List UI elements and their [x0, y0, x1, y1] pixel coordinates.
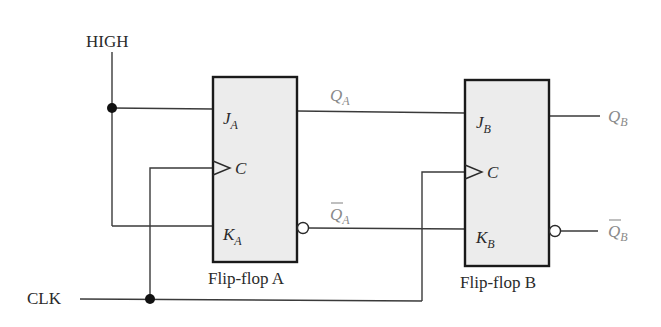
output-qb-bar-label: QB [608, 220, 628, 244]
high-label: HIGH [86, 32, 129, 51]
wire-clk-to-ca [150, 168, 213, 299]
pin-cb-label: C [487, 163, 499, 182]
junction-dot-clk [145, 294, 155, 304]
flip-flop-a: JA C KA Flip-flop A [208, 77, 309, 288]
flip-flop-a-name: Flip-flop A [208, 269, 285, 288]
inversion-bubble-b-icon [550, 226, 561, 237]
wire-high-to-ja [112, 108, 213, 109]
pin-ca-label: C [235, 159, 247, 178]
flip-flop-b: JB C KB Flip-flop B [460, 80, 561, 292]
wire-clk-to-cb [422, 172, 465, 301]
clk-label: CLK [27, 289, 62, 308]
wire-qa-to-jb [297, 111, 465, 113]
output-qb-label: QB [608, 107, 628, 129]
junction-dot-high [107, 103, 117, 113]
svg-text:QA: QA [330, 205, 350, 227]
svg-text:QB: QB [608, 222, 628, 244]
clk-horizontal-wire [80, 299, 422, 301]
output-qa-bar-label: QA [330, 203, 350, 227]
output-qa-label: QA [330, 86, 350, 108]
wire-qabar-to-kb [309, 228, 465, 229]
inversion-bubble-a-icon [298, 223, 309, 234]
circuit-diagram: HIGH CLK JA C KA Flip-flop A QA QA JB [0, 0, 661, 327]
flip-flop-b-name: Flip-flop B [460, 273, 536, 292]
